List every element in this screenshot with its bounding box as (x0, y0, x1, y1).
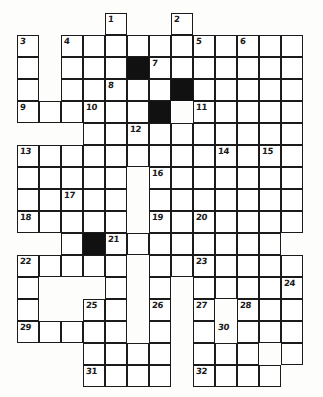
crossword-cell[interactable] (61, 145, 83, 167)
crossword-cell[interactable] (171, 255, 193, 277)
crossword-cell[interactable] (149, 145, 171, 167)
crossword-cell[interactable] (193, 101, 215, 123)
crossword-cell[interactable] (105, 299, 127, 321)
crossword-cell[interactable] (215, 365, 237, 387)
crossword-cell[interactable] (149, 365, 171, 387)
crossword-cell[interactable] (193, 145, 215, 167)
crossword-cell[interactable] (61, 211, 83, 233)
crossword-cell[interactable] (193, 255, 215, 277)
crossword-cell[interactable] (215, 79, 237, 101)
crossword-cell[interactable] (17, 145, 39, 167)
crossword-cell[interactable] (149, 277, 171, 299)
crossword-cell[interactable] (215, 167, 237, 189)
crossword-cell[interactable] (17, 57, 39, 79)
crossword-cell[interactable] (237, 211, 259, 233)
crossword-cell[interactable] (83, 343, 105, 365)
crossword-cell[interactable] (39, 321, 61, 343)
crossword-cell[interactable] (259, 35, 281, 57)
crossword-cell[interactable] (83, 189, 105, 211)
crossword-cell[interactable] (281, 101, 303, 123)
crossword-cell[interactable] (281, 145, 303, 167)
crossword-cell[interactable] (171, 57, 193, 79)
crossword-cell[interactable] (193, 167, 215, 189)
crossword-cell[interactable] (281, 167, 303, 189)
crossword-cell[interactable] (105, 189, 127, 211)
crossword-cell[interactable] (149, 189, 171, 211)
crossword-cell[interactable] (105, 255, 127, 277)
crossword-cell[interactable] (105, 321, 127, 343)
crossword-cell[interactable] (281, 211, 303, 233)
crossword-cell[interactable] (105, 233, 127, 255)
crossword-cell[interactable] (61, 233, 83, 255)
crossword-cell[interactable] (83, 321, 105, 343)
crossword-cell[interactable] (83, 79, 105, 101)
crossword-grid[interactable]: 1234567891011121314151617181920212223242… (0, 0, 323, 397)
crossword-cell[interactable] (237, 277, 259, 299)
crossword-cell[interactable] (83, 35, 105, 57)
crossword-cell[interactable] (171, 233, 193, 255)
crossword-cell[interactable] (17, 101, 39, 123)
crossword-cell[interactable] (215, 233, 237, 255)
crossword-cell[interactable] (105, 277, 127, 299)
crossword-cell[interactable] (61, 255, 83, 277)
crossword-cell[interactable] (17, 255, 39, 277)
crossword-cell[interactable] (127, 145, 149, 167)
crossword-cell[interactable] (149, 123, 171, 145)
crossword-cell[interactable] (61, 321, 83, 343)
crossword-cell[interactable] (149, 299, 171, 321)
crossword-cell[interactable] (193, 57, 215, 79)
crossword-cell[interactable] (105, 211, 127, 233)
crossword-cell[interactable] (237, 233, 259, 255)
crossword-cell[interactable] (237, 145, 259, 167)
crossword-cell[interactable] (61, 57, 83, 79)
crossword-cell[interactable] (83, 57, 105, 79)
crossword-cell[interactable] (259, 277, 281, 299)
crossword-cell[interactable] (105, 343, 127, 365)
crossword-cell[interactable] (39, 189, 61, 211)
crossword-cell[interactable] (193, 343, 215, 365)
crossword-cell[interactable] (193, 123, 215, 145)
crossword-cell[interactable] (193, 35, 215, 57)
crossword-cell[interactable] (281, 123, 303, 145)
crossword-cell[interactable] (17, 277, 39, 299)
crossword-cell[interactable] (193, 233, 215, 255)
crossword-cell[interactable] (17, 79, 39, 101)
crossword-cell[interactable] (61, 79, 83, 101)
crossword-cell[interactable] (127, 365, 149, 387)
crossword-cell[interactable] (83, 123, 105, 145)
crossword-cell[interactable] (215, 255, 237, 277)
crossword-cell[interactable] (105, 35, 127, 57)
crossword-cell[interactable] (83, 365, 105, 387)
crossword-cell[interactable] (127, 123, 149, 145)
crossword-cell[interactable] (281, 277, 303, 299)
crossword-cell[interactable] (259, 321, 281, 343)
crossword-cell[interactable] (127, 233, 149, 255)
crossword-cell[interactable] (237, 167, 259, 189)
crossword-cell[interactable] (127, 79, 149, 101)
crossword-cell[interactable] (237, 343, 259, 365)
crossword-cell[interactable] (105, 13, 127, 35)
crossword-cell[interactable] (61, 101, 83, 123)
crossword-cell[interactable] (215, 57, 237, 79)
crossword-cell[interactable] (149, 233, 171, 255)
crossword-cell[interactable] (83, 255, 105, 277)
crossword-cell[interactable] (281, 321, 303, 343)
crossword-cell[interactable] (83, 145, 105, 167)
crossword-cell[interactable] (281, 255, 303, 277)
crossword-cell[interactable] (215, 277, 237, 299)
crossword-cell[interactable] (237, 299, 259, 321)
crossword-cell[interactable] (83, 299, 105, 321)
crossword-cell[interactable] (215, 35, 237, 57)
crossword-cell[interactable] (215, 343, 237, 365)
crossword-cell[interactable] (171, 123, 193, 145)
crossword-cell[interactable] (61, 35, 83, 57)
crossword-cell[interactable] (127, 101, 149, 123)
crossword-cell[interactable] (193, 365, 215, 387)
crossword-cell[interactable] (149, 57, 171, 79)
crossword-cell[interactable] (237, 57, 259, 79)
crossword-cell[interactable] (237, 101, 259, 123)
crossword-cell[interactable] (237, 365, 259, 387)
crossword-cell[interactable] (17, 299, 39, 321)
crossword-cell[interactable] (259, 79, 281, 101)
crossword-cell[interactable] (281, 343, 303, 365)
